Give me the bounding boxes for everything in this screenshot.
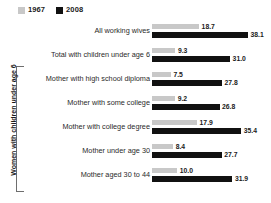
chart-row: Mother with some college9.226.8 <box>0 93 271 117</box>
category-label: Mother under age 30 <box>20 146 150 155</box>
bar-1967 <box>152 24 199 29</box>
bar-group: 10.031.9 <box>152 166 271 188</box>
bar-value-label: 35.4 <box>244 127 257 134</box>
bar-2008 <box>152 80 222 86</box>
bar-1967 <box>152 168 177 173</box>
bar-group: 18.738.1 <box>152 22 271 44</box>
category-label: Mother with some college <box>20 98 150 107</box>
bar-value-label: 38.1 <box>251 31 264 38</box>
bar-group: 8.427.7 <box>152 142 271 164</box>
bar-1967 <box>152 96 175 101</box>
bar-1967 <box>152 48 175 53</box>
bar-value-label: 27.7 <box>224 151 237 158</box>
bar-value-label: 7.5 <box>173 71 182 78</box>
bar-value-label: 17.9 <box>200 119 213 126</box>
bar-value-label: 9.2 <box>178 95 187 102</box>
chart-row: Mother aged 30 to 4410.031.9 <box>0 165 271 189</box>
chart-row: Mother under age 308.427.7 <box>0 141 271 165</box>
legend-label: 1967 <box>28 6 45 14</box>
square-swatch-icon <box>56 7 63 14</box>
bar-group: 7.527.8 <box>152 70 271 92</box>
bar-value-label: 26.8 <box>222 103 235 110</box>
bar-value-label: 18.7 <box>202 23 215 30</box>
bar-value-label: 31.9 <box>235 175 248 182</box>
group-axis-label: Women with children under age 6 <box>10 56 18 184</box>
category-label: Mother aged 30 to 44 <box>20 170 150 179</box>
bar-value-label: 10.0 <box>180 167 193 174</box>
bar-2008 <box>152 152 222 158</box>
chart-row: All working wives18.738.1 <box>0 21 271 45</box>
chart-legend: 1967 2008 <box>18 4 83 16</box>
legend-label: 2008 <box>66 6 83 14</box>
bar-2008 <box>152 104 220 110</box>
bar-2008 <box>152 32 248 38</box>
bar-chart-plot-area: All working wives18.738.1Total with chil… <box>0 19 271 203</box>
category-label: Total with children under age 6 <box>20 50 150 59</box>
bar-2008 <box>152 128 241 134</box>
bar-group: 9.331.0 <box>152 46 271 68</box>
square-swatch-icon <box>18 7 25 14</box>
bar-value-label: 8.4 <box>176 143 185 150</box>
bar-2008 <box>152 56 230 62</box>
chart-row: Total with children under age 69.331.0 <box>0 45 271 69</box>
bar-2008 <box>152 176 232 182</box>
legend-item-1967: 1967 <box>18 6 45 14</box>
bar-1967 <box>152 144 173 149</box>
bar-value-label: 31.0 <box>233 55 246 62</box>
chart-row: Mother with high school diploma7.527.8 <box>0 69 271 93</box>
category-label: Mother with college degree <box>20 122 150 131</box>
bar-1967 <box>152 120 197 125</box>
bar-group: 9.226.8 <box>152 94 271 116</box>
group-axis: Women with children under age 6 <box>2 66 24 194</box>
category-label: Mother with high school diploma <box>20 74 150 83</box>
bar-value-label: 27.8 <box>225 79 238 86</box>
bar-group: 17.935.4 <box>152 118 271 140</box>
chart-row: Mother with college degree17.935.4 <box>0 117 271 141</box>
bar-1967 <box>152 72 171 77</box>
bar-value-label: 9.3 <box>178 47 187 54</box>
legend-item-2008: 2008 <box>56 6 83 14</box>
category-label: All working wives <box>20 26 150 35</box>
